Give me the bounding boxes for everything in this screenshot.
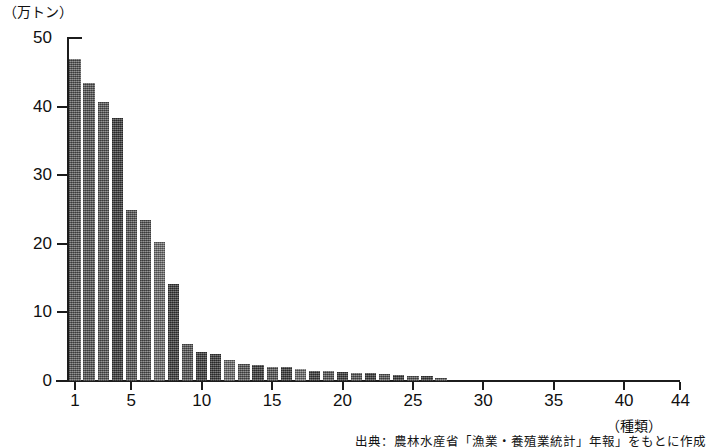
bar-7 — [154, 242, 165, 381]
y-tick-label-30: 30 — [18, 166, 52, 183]
x-tick-label-25: 25 — [393, 392, 433, 409]
x-tick-25 — [412, 382, 414, 390]
bar-5 — [126, 210, 137, 382]
bar-2 — [83, 83, 94, 381]
y-tick-label-50: 50 — [18, 29, 52, 46]
bar-fill-12 — [224, 360, 235, 381]
y-tick-label-10: 10 — [18, 303, 52, 320]
x-tick-label-35: 35 — [534, 392, 574, 409]
x-tick-30 — [482, 382, 484, 390]
bar-12 — [224, 360, 235, 381]
bar-15 — [267, 367, 278, 381]
bar-16 — [281, 367, 292, 381]
x-tick-label-1: 1 — [55, 392, 95, 409]
y-tick-10 — [57, 311, 68, 313]
y-tick-label-20: 20 — [18, 235, 52, 252]
y-tick-20 — [57, 243, 68, 245]
bar-fill-10 — [196, 352, 207, 381]
bar-fill-5 — [126, 210, 137, 382]
y-tick-50 — [68, 37, 82, 39]
x-tick-20 — [342, 382, 344, 390]
bar-1 — [69, 59, 80, 381]
x-axis-unit-label: （種類） — [606, 415, 662, 435]
bar-fill-14 — [252, 365, 263, 381]
source-note: 出典：農林水産省「漁業・養殖業統計」年報」をもとに作成 — [355, 436, 706, 448]
y-tick-40 — [57, 106, 68, 108]
bar-fill-11 — [210, 354, 221, 381]
bar-9 — [182, 344, 193, 381]
bar-fill-6 — [140, 220, 151, 381]
x-tick-5 — [130, 382, 132, 390]
x-axis-line — [56, 380, 680, 382]
x-tick-40 — [623, 382, 625, 390]
x-tick-label-15: 15 — [252, 392, 292, 409]
bar-fill-7 — [154, 242, 165, 381]
y-tick-label-40: 40 — [18, 98, 52, 115]
bar-fill-1 — [69, 59, 80, 381]
y-tick-label-0: 0 — [18, 372, 52, 389]
bar-6 — [140, 220, 151, 381]
bar-fill-9 — [182, 344, 193, 381]
bar-10 — [196, 352, 207, 381]
bar-fill-16 — [281, 367, 292, 381]
bar-fill-3 — [98, 102, 109, 381]
x-tick-44 — [679, 382, 681, 390]
x-tick-35 — [553, 382, 555, 390]
bar-fill-15 — [267, 367, 278, 381]
bar-13 — [238, 364, 249, 381]
bar-fill-13 — [238, 364, 249, 381]
x-tick-label-40: 40 — [604, 392, 644, 409]
x-tick-label-20: 20 — [323, 392, 363, 409]
bar-3 — [98, 102, 109, 381]
bar-4 — [112, 118, 123, 381]
x-tick-label-5: 5 — [111, 392, 151, 409]
x-tick-15 — [271, 382, 273, 390]
x-tick-10 — [201, 382, 203, 390]
y-tick-0 — [57, 380, 68, 382]
y-axis-line — [67, 37, 69, 382]
bar-fill-4 — [112, 118, 123, 381]
y-axis-unit-label: （万トン） — [3, 1, 73, 21]
x-tick-label-10: 10 — [182, 392, 222, 409]
bar-11 — [210, 354, 221, 381]
x-tick-label-30: 30 — [463, 392, 503, 409]
bar-14 — [252, 365, 263, 381]
bar-fill-2 — [83, 83, 94, 381]
x-tick-label-44: 44 — [660, 392, 700, 409]
bar-8 — [168, 284, 179, 381]
bar-fill-8 — [168, 284, 179, 381]
x-tick-1 — [74, 382, 76, 390]
y-tick-30 — [57, 174, 68, 176]
